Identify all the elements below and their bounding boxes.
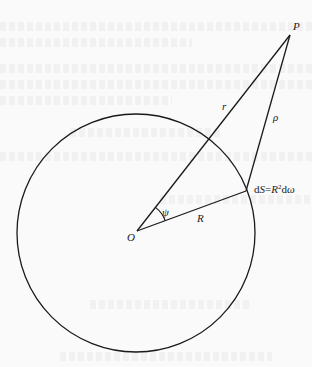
dS-omega: ω: [287, 183, 295, 195]
point-label-p: P: [293, 21, 300, 32]
surface-element-label: dS=R2dω: [254, 184, 295, 195]
diagram-canvas: P r ρ ψ R O dS=R2dω: [0, 0, 312, 367]
segment-label-rho: ρ: [273, 112, 278, 123]
segment-rho: [246, 35, 290, 191]
sphere-circle: [17, 114, 255, 352]
segment-r: [137, 35, 290, 231]
angle-label-psi: ψ: [162, 207, 169, 218]
dS-R: R: [271, 183, 278, 195]
point-label-o: O: [127, 232, 135, 243]
segment-label-r: r: [222, 101, 226, 112]
segment-label-R: R: [197, 213, 204, 224]
